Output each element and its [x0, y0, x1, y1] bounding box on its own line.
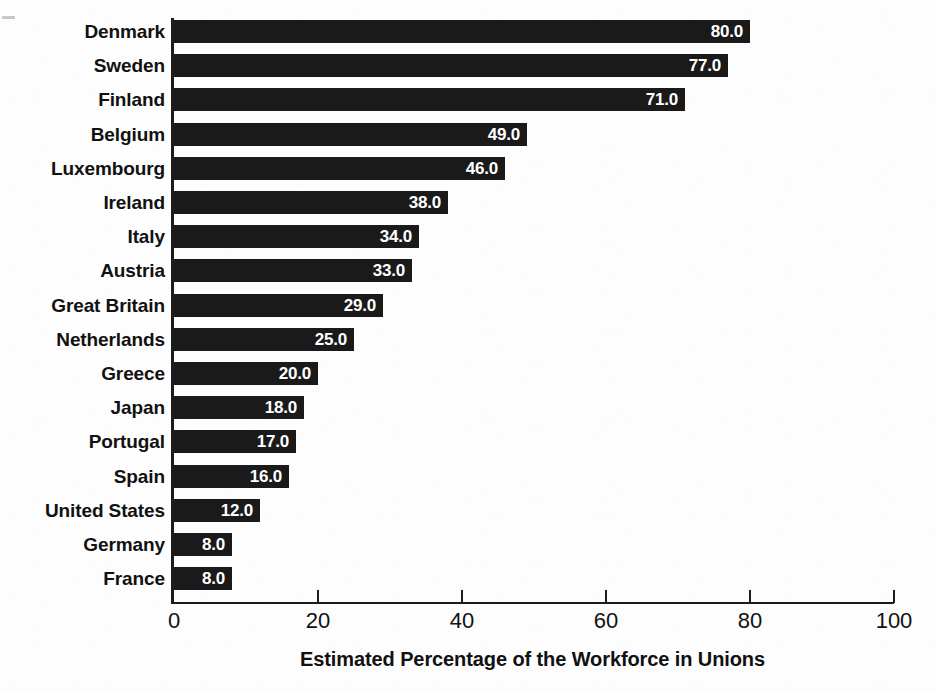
bar-value-label: 18.0	[265, 396, 297, 419]
bar-value-label: 71.0	[646, 88, 678, 111]
x-axis-tick	[317, 590, 319, 603]
category-label: Netherlands	[0, 328, 165, 351]
category-label: Japan	[0, 396, 165, 419]
category-label: Austria	[0, 259, 165, 282]
x-axis-line	[171, 602, 894, 604]
chart-figure: Denmark80.0Sweden77.0Finland71.0Belgium4…	[0, 0, 936, 691]
x-axis-tick-label: 100	[854, 608, 934, 634]
bar-row: Austria33.0	[0, 259, 936, 282]
x-axis-tick	[749, 590, 751, 603]
bar: 46.0	[174, 157, 505, 180]
x-axis-title: Estimated Percentage of the Workforce in…	[171, 648, 894, 671]
bar: 20.0	[174, 362, 318, 385]
bar-value-label: 33.0	[373, 259, 405, 282]
x-axis-tick-label: 80	[710, 608, 790, 634]
category-label: Germany	[0, 533, 165, 556]
category-label: Portugal	[0, 430, 165, 453]
bar-row: France8.0	[0, 567, 936, 590]
bar-value-label: 49.0	[488, 123, 520, 146]
bar: 34.0	[174, 225, 419, 248]
bar: 8.0	[174, 567, 232, 590]
category-label: Spain	[0, 465, 165, 488]
bar-row: Sweden77.0	[0, 54, 936, 77]
bar-row: Netherlands25.0	[0, 328, 936, 351]
bar-row: Japan18.0	[0, 396, 936, 419]
x-axis-tick-label: 60	[566, 608, 646, 634]
bar-value-label: 16.0	[250, 465, 282, 488]
bar-value-label: 25.0	[315, 328, 347, 351]
bar: 16.0	[174, 465, 289, 488]
bar: 18.0	[174, 396, 304, 419]
bar-value-label: 8.0	[202, 533, 225, 556]
bar-value-label: 17.0	[257, 430, 289, 453]
bar-value-label: 77.0	[689, 54, 721, 77]
bar-row: Ireland38.0	[0, 191, 936, 214]
bar-value-label: 34.0	[380, 225, 412, 248]
bar: 25.0	[174, 328, 354, 351]
bar: 33.0	[174, 259, 412, 282]
bar-row: United States12.0	[0, 499, 936, 522]
bar-row: Great Britain29.0	[0, 294, 936, 317]
x-axis-tick-label: 0	[134, 608, 214, 634]
category-label: Italy	[0, 225, 165, 248]
category-label: Denmark	[0, 20, 165, 43]
bar-value-label: 12.0	[221, 499, 253, 522]
bar: 17.0	[174, 430, 296, 453]
bar-value-label: 20.0	[279, 362, 311, 385]
category-label: Ireland	[0, 191, 165, 214]
x-axis-tick	[605, 590, 607, 603]
category-label: Luxembourg	[0, 157, 165, 180]
category-label: France	[0, 567, 165, 590]
bar-value-label: 46.0	[466, 157, 498, 180]
bar-row: Portugal17.0	[0, 430, 936, 453]
x-axis-tick-label: 40	[422, 608, 502, 634]
bar-row: Denmark80.0	[0, 20, 936, 43]
category-label: Great Britain	[0, 294, 165, 317]
bar-row: Luxembourg46.0	[0, 157, 936, 180]
plot-area: Denmark80.0Sweden77.0Finland71.0Belgium4…	[0, 0, 936, 691]
category-label: United States	[0, 499, 165, 522]
bar-value-label: 38.0	[409, 191, 441, 214]
bar: 80.0	[174, 20, 750, 43]
bar-value-label: 8.0	[202, 567, 225, 590]
x-axis-tick	[461, 590, 463, 603]
bar: 12.0	[174, 499, 260, 522]
bar-value-label: 29.0	[344, 294, 376, 317]
category-label: Finland	[0, 88, 165, 111]
bar-row: Belgium49.0	[0, 123, 936, 146]
bar-row: Spain16.0	[0, 465, 936, 488]
bar-row: Italy34.0	[0, 225, 936, 248]
bar: 8.0	[174, 533, 232, 556]
bar: 71.0	[174, 88, 685, 111]
category-label: Greece	[0, 362, 165, 385]
bar: 29.0	[174, 294, 383, 317]
bar: 77.0	[174, 54, 728, 77]
bar-row: Finland71.0	[0, 88, 936, 111]
bar-row: Greece20.0	[0, 362, 936, 385]
category-label: Belgium	[0, 123, 165, 146]
bar: 38.0	[174, 191, 448, 214]
category-label: Sweden	[0, 54, 165, 77]
bar-row: Germany8.0	[0, 533, 936, 556]
bar: 49.0	[174, 123, 527, 146]
x-axis-tick-label: 20	[278, 608, 358, 634]
x-axis-tick	[893, 590, 895, 603]
bar-value-label: 80.0	[711, 20, 743, 43]
